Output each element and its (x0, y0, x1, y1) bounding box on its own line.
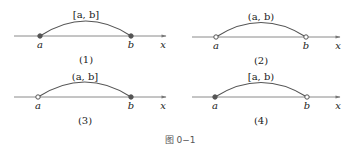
axis-label: x (335, 40, 341, 51)
right-endpoint-open (305, 95, 309, 99)
panel-number: (2) (254, 55, 268, 66)
figure-0-1: [a, b] a b x (1) (a, b) a b x (2) (a, b]… (0, 0, 359, 152)
right-endpoint-closed (129, 34, 133, 38)
figure-caption: 图 0−1 (165, 135, 196, 145)
right-endpoint-closed (129, 95, 133, 99)
left-endpoint-open (36, 95, 40, 99)
left-label: a (213, 40, 219, 51)
left-endpoint-closed (213, 95, 217, 99)
right-label: b (128, 100, 134, 111)
panel-4: [a, b) a b x (4) (192, 71, 341, 126)
left-endpoint-open (214, 35, 218, 39)
right-label: b (304, 100, 310, 111)
left-label: a (212, 100, 218, 111)
axis-label: x (160, 100, 166, 111)
panel-1: [a, b] a b x (1) (14, 9, 166, 65)
left-label: a (35, 100, 41, 111)
right-label: b (303, 40, 309, 51)
interval-arc (38, 82, 131, 97)
panel-2: (a, b) a b x (2) (192, 11, 341, 66)
right-endpoint-open (304, 35, 308, 39)
interval-arc (40, 21, 131, 36)
interval-arc (216, 23, 306, 38)
left-label: a (37, 39, 43, 50)
axis-label: x (160, 39, 166, 50)
axis-label: x (335, 100, 341, 111)
interval-label: (a, b] (72, 71, 99, 82)
right-label: b (128, 39, 134, 50)
panel-number: (4) (254, 115, 268, 126)
interval-arc (215, 83, 307, 98)
panel-number: (3) (78, 115, 92, 126)
interval-label: (a, b) (248, 11, 275, 22)
left-endpoint-closed (38, 34, 42, 38)
interval-label: [a, b] (73, 9, 100, 20)
panel-number: (1) (79, 54, 93, 65)
interval-label: [a, b) (248, 71, 275, 82)
interval-diagram: [a, b] a b x (1) (a, b) a b x (2) (a, b]… (0, 0, 359, 152)
panel-3: (a, b] a b x (3) (14, 71, 166, 126)
